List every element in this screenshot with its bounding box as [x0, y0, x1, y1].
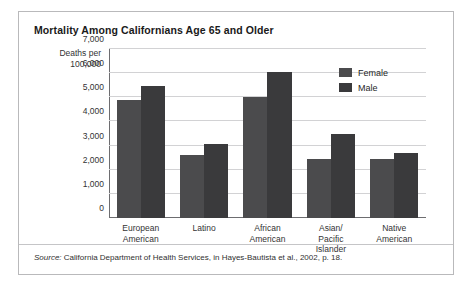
y-axis-tick-label: 4,000 — [83, 106, 104, 116]
legend-swatch-icon — [339, 83, 352, 92]
x-axis-tick-label-line: American — [363, 234, 426, 245]
x-axis-tick-label-line: Asian/ — [299, 223, 362, 234]
x-axis-tick-label-line: European — [109, 223, 172, 234]
x-axis-tick-label-line: Latino — [172, 223, 235, 234]
bar-female — [117, 100, 141, 218]
x-axis-tick-label-line: American — [236, 234, 299, 245]
y-axis-tick-label: 7,000 — [83, 34, 104, 44]
y-axis-tick-label: 6,000 — [83, 58, 104, 68]
x-axis-tick-label: NativeAmerican — [363, 223, 426, 244]
source-label: Source: — [34, 253, 62, 262]
x-axis-tick-label: EuropeanAmerican — [109, 223, 172, 244]
bar-group: Latino — [172, 49, 235, 218]
legend-label: Female — [358, 68, 388, 78]
bar-female — [180, 155, 204, 218]
x-axis-tick-label-line: Native — [363, 223, 426, 234]
figure-frame: Mortality Among Californians Age 65 and … — [18, 11, 454, 275]
source-text: California Department of Health Services… — [64, 253, 342, 262]
legend-swatch-icon — [339, 68, 352, 77]
bar-male — [331, 134, 355, 218]
bar-male — [394, 153, 418, 218]
x-axis-tick-label: Asian/PacificIslander — [299, 223, 362, 255]
x-axis-tick-label: Latino — [172, 223, 235, 234]
source-note: Source: California Department of Health … — [34, 253, 342, 262]
x-axis-tick-label-line: Pacific — [299, 234, 362, 245]
bar-female — [243, 97, 267, 218]
source-divider — [19, 244, 453, 245]
bar-female — [370, 159, 394, 218]
y-axis-tick-label: 2,000 — [83, 155, 104, 165]
page-title: Mortality Among Californians Age 65 and … — [34, 24, 274, 36]
x-axis-tick-label-line: American — [109, 234, 172, 245]
x-axis-tick-label: AfricanAmerican — [236, 223, 299, 244]
legend: FemaleMale — [339, 65, 388, 95]
y-axis-tick-label: 5,000 — [83, 82, 104, 92]
bar-group: AfricanAmerican — [236, 49, 299, 218]
legend-item-female[interactable]: Female — [339, 65, 388, 80]
legend-label: Male — [358, 83, 378, 93]
bar-male — [204, 144, 228, 218]
y-axis-tick-label: 3,000 — [83, 131, 104, 141]
bar-male — [141, 86, 165, 218]
bar-group: EuropeanAmerican — [109, 49, 172, 218]
y-axis-tick-label: 0 — [99, 203, 104, 213]
bar-female — [307, 159, 331, 218]
y-axis-tick-label: 1,000 — [83, 179, 104, 189]
bar-male — [267, 72, 291, 218]
x-axis-tick-label-line: African — [236, 223, 299, 234]
legend-item-male[interactable]: Male — [339, 80, 388, 95]
